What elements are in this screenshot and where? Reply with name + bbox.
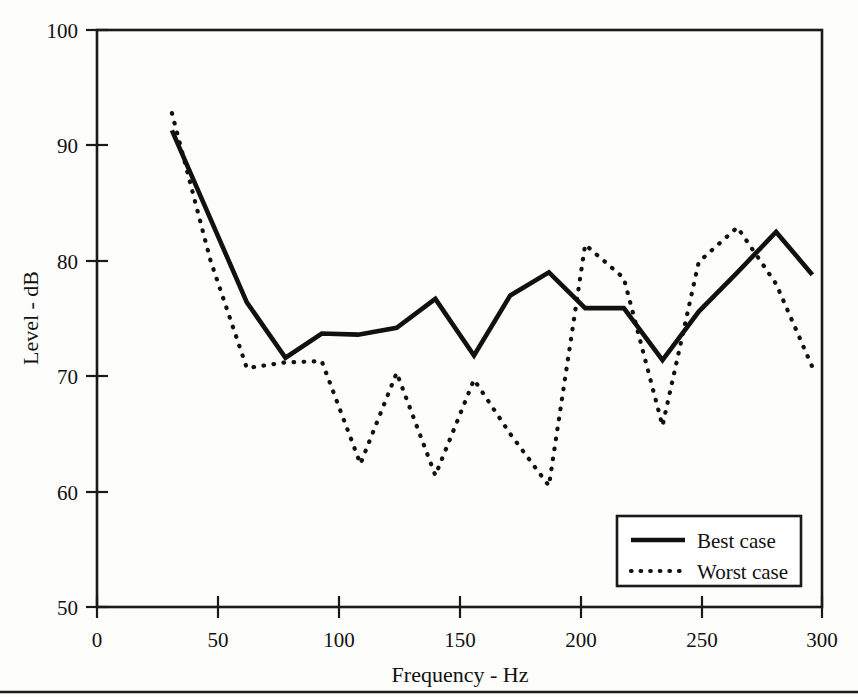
x-tick-label-150: 150 — [444, 628, 476, 652]
y-axis-tick-labels: 100 90 80 70 60 50 — [47, 19, 79, 620]
y-tick-label-60: 60 — [57, 481, 78, 505]
x-axis-tick-labels: 0 50 100 150 200 250 300 — [92, 628, 838, 652]
x-tick-label-250: 250 — [686, 628, 718, 652]
series-best-case — [172, 130, 812, 360]
chart-legend: Best case Worst case — [617, 516, 801, 586]
legend-label-best-case: Best case — [697, 529, 776, 553]
y-tick-label-50: 50 — [57, 596, 78, 620]
y-tick-label-80: 80 — [57, 250, 78, 274]
x-tick-label-200: 200 — [565, 628, 597, 652]
x-tick-label-100: 100 — [323, 628, 355, 652]
y-axis-title: Level - dB — [18, 271, 43, 365]
chart-figure: 100 90 80 70 60 50 0 50 100 150 200 250 … — [0, 0, 858, 697]
x-tick-label-300: 300 — [806, 628, 838, 652]
y-tick-label-100: 100 — [47, 19, 79, 43]
line-chart: 100 90 80 70 60 50 0 50 100 150 200 250 … — [0, 0, 858, 697]
y-tick-label-70: 70 — [57, 365, 78, 389]
x-axis-title: Frequency - Hz — [392, 662, 529, 687]
x-tick-label-0: 0 — [92, 628, 103, 652]
y-tick-label-90: 90 — [57, 134, 78, 158]
series-worst-case — [172, 113, 812, 486]
x-tick-label-50: 50 — [208, 628, 229, 652]
legend-label-worst-case: Worst case — [697, 560, 788, 584]
